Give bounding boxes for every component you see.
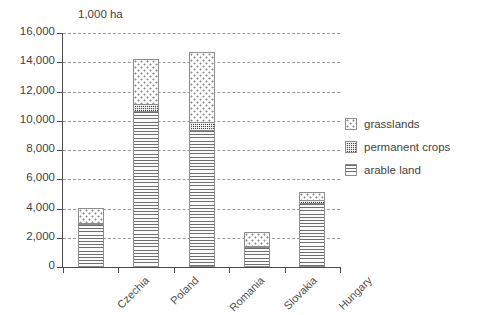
legend-swatch-icon <box>345 118 357 130</box>
y-axis-tick-label: 6,000 <box>3 171 55 183</box>
bar-segment-permanent-crops <box>133 104 159 111</box>
plot-area <box>63 33 340 267</box>
bar-segment-arable-land <box>78 224 104 267</box>
y-axis-tick <box>57 209 63 210</box>
gridline <box>63 33 340 34</box>
bar-segment-arable-land <box>244 247 270 267</box>
bar-segment-arable-land <box>299 203 325 267</box>
y-axis-tick-label: 8,000 <box>3 142 55 154</box>
y-axis-tick-label: 16,000 <box>3 25 55 37</box>
y-axis-tick-label: 2,000 <box>3 230 55 242</box>
y-axis-tick <box>57 33 63 34</box>
bar-segment-arable-land <box>189 130 215 267</box>
stacked-bar-chart: 1,000 ha 16,00014,00012,00010,0008,0006,… <box>0 0 479 315</box>
legend-item-grasslands[interactable]: grasslands <box>345 112 475 135</box>
bar-segment-grasslands <box>133 59 159 104</box>
x-axis-label-czechia: Czechia <box>114 274 151 311</box>
x-axis-tick <box>285 267 286 273</box>
bar-slovakia <box>244 232 270 267</box>
y-axis-tick-label: 10,000 <box>3 113 55 125</box>
chart-legend: grasslandspermanent cropsarable land <box>345 112 475 181</box>
legend-swatch-icon <box>345 164 357 176</box>
bar-segment-permanent-crops <box>189 122 215 129</box>
legend-label: grasslands <box>364 118 420 130</box>
bar-romania <box>189 52 215 267</box>
y-axis-tick <box>57 92 63 93</box>
y-axis-tick <box>57 62 63 63</box>
y-axis-tick <box>57 238 63 239</box>
x-axis-label-poland: Poland <box>168 274 201 307</box>
x-axis-tick <box>63 267 64 273</box>
legend-item-arable-land[interactable]: arable land <box>345 158 475 181</box>
x-axis-label-romania: Romania <box>226 274 266 314</box>
x-axis-label-hungary: Hungary <box>336 274 374 312</box>
x-axis-line <box>62 267 340 268</box>
x-axis-tick <box>118 267 119 273</box>
y-axis-tick <box>57 179 63 180</box>
y-axis-tick-labels: 16,00014,00012,00010,0008,0006,0004,0002… <box>0 0 55 315</box>
bar-segment-grasslands <box>189 52 215 122</box>
legend-label: permanent crops <box>364 141 450 153</box>
y-axis-tick-label: 14,000 <box>3 54 55 66</box>
y-axis-tick <box>57 150 63 151</box>
x-axis-tick <box>174 267 175 273</box>
x-axis-tick <box>340 267 341 273</box>
bar-segment-arable-land <box>133 111 159 267</box>
y-axis-unit-label: 1,000 ha <box>78 8 123 20</box>
y-axis-tick <box>57 121 63 122</box>
bar-czechia <box>78 208 104 267</box>
x-axis-label-slovakia: Slovakia <box>281 274 319 312</box>
bar-segment-grasslands <box>78 208 104 223</box>
legend-swatch-icon <box>345 141 357 153</box>
y-axis-tick-label: 4,000 <box>3 201 55 213</box>
y-axis-tick-label: 0 <box>3 259 55 271</box>
bar-poland <box>133 59 159 267</box>
bar-hungary <box>299 192 325 267</box>
bar-segment-grasslands <box>244 232 270 246</box>
legend-item-permanent-crops[interactable]: permanent crops <box>345 135 475 158</box>
x-axis-tick <box>229 267 230 273</box>
y-axis-tick-label: 12,000 <box>3 84 55 96</box>
bar-segment-grasslands <box>299 192 325 199</box>
legend-label: arable land <box>364 164 421 176</box>
